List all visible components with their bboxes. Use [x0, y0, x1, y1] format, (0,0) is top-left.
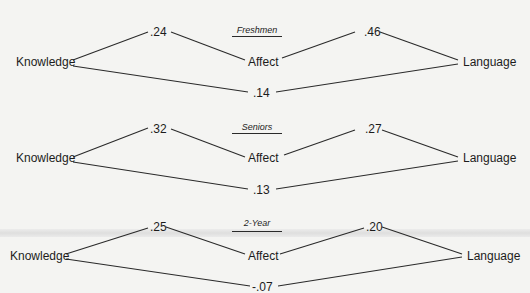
coef-affect-language: .27 [365, 122, 382, 136]
coef-knowledge-affect: .32 [150, 122, 167, 136]
node-affect: Affect [248, 151, 278, 165]
coef-knowledge-affect: .24 [150, 25, 167, 39]
coef-knowledge-language: .14 [253, 86, 270, 100]
group-title: Seniors [232, 122, 282, 132]
coef-knowledge-language: -.07 [252, 280, 273, 293]
node-knowledge: Knowledge [16, 55, 75, 69]
node-affect: Affect [248, 249, 278, 263]
node-language: Language [467, 249, 520, 263]
coef-knowledge-language: .13 [253, 183, 270, 197]
coef-knowledge-affect: .25 [150, 220, 167, 234]
group-title: Freshmen [232, 25, 282, 35]
node-affect: Affect [248, 55, 278, 69]
node-knowledge: Knowledge [10, 249, 69, 263]
node-knowledge: Knowledge [16, 151, 75, 165]
node-language: Language [463, 55, 516, 69]
coef-affect-language: .46 [364, 25, 381, 39]
group-title: 2-Year [232, 218, 282, 228]
title-underline [232, 36, 282, 37]
title-underline [232, 231, 282, 232]
coef-affect-language: .20 [366, 220, 383, 234]
node-language: Language [463, 151, 516, 165]
title-underline [232, 133, 282, 134]
